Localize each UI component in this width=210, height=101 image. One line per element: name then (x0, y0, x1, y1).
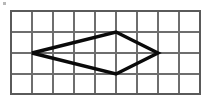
scan-speck-icon (3, 2, 6, 5)
figure-canvas (0, 0, 210, 101)
grid-figure-svg (0, 0, 210, 101)
grid-horizontal-lines (11, 32, 200, 74)
